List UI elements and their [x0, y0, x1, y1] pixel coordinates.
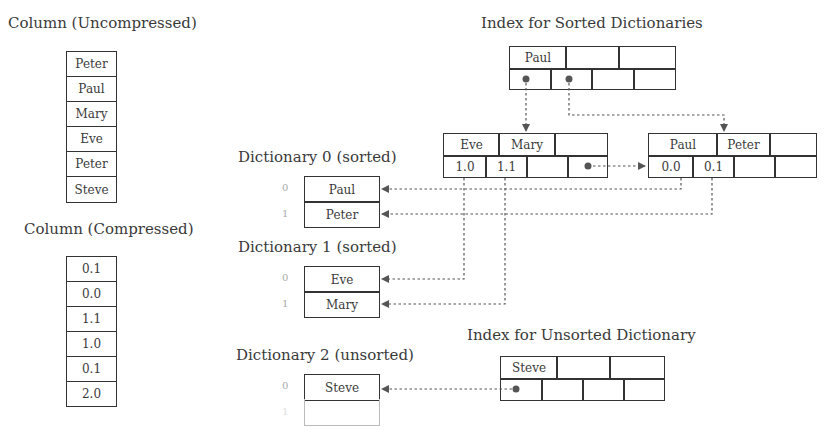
pointer-links	[0, 0, 832, 439]
pointer-dot-icon	[585, 163, 592, 170]
value-to-dictionary-link	[382, 178, 505, 304]
value-to-dictionary-link	[382, 178, 712, 214]
pointer-dot-icons	[513, 76, 592, 393]
pointer-dot-icon	[566, 76, 573, 83]
pointer-dot-icon	[513, 386, 520, 393]
value-to-dictionary-link	[382, 178, 681, 189]
index-child-link	[569, 83, 724, 131]
value-to-dictionary-link	[382, 178, 464, 279]
pointer-dot-icon	[523, 76, 530, 83]
